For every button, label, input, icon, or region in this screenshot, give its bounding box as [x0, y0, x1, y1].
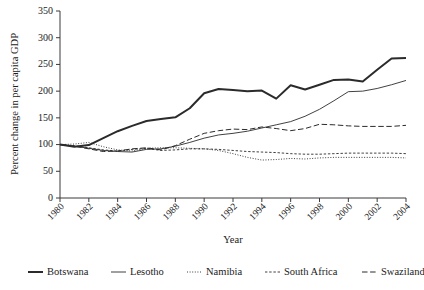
legend-label-south-africa: South Africa: [284, 266, 338, 277]
x-tick-label: 1992: [218, 201, 239, 222]
y-tick-label: 250: [38, 58, 53, 69]
x-tick-label: 1982: [74, 201, 95, 222]
x-axis-title: Year: [223, 234, 243, 245]
y-tick-label: 100: [38, 138, 53, 149]
series-line-lesotho: [60, 80, 406, 152]
x-tick-label: 1988: [161, 201, 182, 222]
y-tick-label: 300: [38, 32, 53, 43]
x-tick-label: 1996: [276, 201, 297, 222]
x-tick-label: 1980: [45, 201, 66, 222]
y-tick-label: 150: [38, 112, 53, 123]
x-tick-label: 1998: [305, 201, 326, 222]
x-tick-label: 1990: [190, 201, 211, 222]
y-tick-label: 50: [43, 165, 53, 176]
legend-label-lesotho: Lesotho: [130, 266, 164, 277]
y-tick-label: 0: [48, 192, 53, 203]
legend-label-botswana: Botswana: [47, 266, 89, 277]
y-axis-ticks: 050100150200250300350: [38, 5, 60, 203]
legend-label-namibia: Namibia: [206, 266, 242, 277]
x-axis-ticks: 1980198219841986198819901992199419961998…: [45, 198, 412, 222]
x-tick-label: 2004: [391, 201, 412, 222]
y-tick-label: 200: [38, 85, 53, 96]
legend-label-swaziland: Swaziland: [381, 266, 424, 277]
x-tick-label: 2002: [363, 201, 384, 222]
y-axis-title: Percent change in per capita GDP: [9, 33, 20, 175]
chart-figure: 050100150200250300350 198019821984198619…: [0, 0, 424, 290]
series-line-south-africa: [60, 145, 406, 155]
x-tick-label: 1994: [247, 201, 268, 222]
x-tick-label: 1984: [103, 201, 124, 222]
y-tick-label: 350: [38, 5, 53, 16]
line-chart: 050100150200250300350 198019821984198619…: [0, 0, 424, 290]
chart-legend: BotswanaLesothoNamibiaSouth AfricaSwazil…: [28, 266, 424, 277]
series-lines: [60, 58, 406, 160]
x-tick-label: 1986: [132, 201, 153, 222]
x-tick-label: 2000: [334, 201, 355, 222]
series-line-swaziland: [60, 124, 406, 151]
